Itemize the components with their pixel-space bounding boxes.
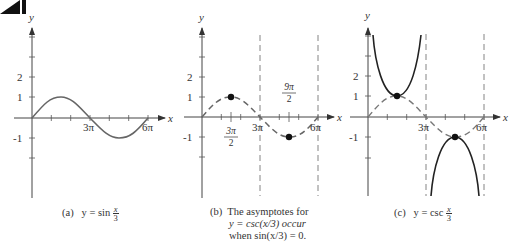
max-point [452,134,458,140]
ytick-2: 2 [187,71,193,83]
ytick-neg1: -1 [13,132,22,144]
frac-3pi-2-num: 3π [225,126,236,136]
ytick-neg1: -1 [349,131,358,143]
fraction: x3 [446,205,452,222]
caption-tag: (b) [210,206,222,217]
caption-equation: y = sin [82,207,111,218]
end-marker-icon [0,0,26,14]
caption-tag: (c) [394,207,406,218]
frac-9pi-2-den: 2 [287,94,292,104]
ytick-1: 1 [353,90,359,102]
y-axis-label: y [28,11,34,23]
x-axis-label: x [167,112,173,124]
caption-line-3: when sin(x/3) = 0. [210,230,306,241]
panel-b-graph [184,28,334,198]
caption-a: (a) y = sin x3 [62,205,119,222]
min-point [286,134,292,140]
y-axis-label: y [198,11,204,23]
ytick-1: 1 [187,91,193,103]
fraction: x3 [113,205,119,222]
csc-branch-upper [373,35,421,96]
xtick-6pi: 6π [310,121,322,133]
caption-c: (c) y = csc x3 [394,205,452,222]
frac-3pi-2-den: 2 [229,138,234,148]
panel-a-graph [14,28,165,198]
xtick-3pi: 3π [83,121,95,133]
frac-9pi-2-num: 9π [284,82,294,92]
ytick-neg1: -1 [183,131,192,143]
xtick-3pi: 3π [252,121,264,133]
y-axis-label: y [364,9,370,21]
ytick-2: 2 [353,70,359,82]
xtick-6pi: 6π [142,121,154,133]
x-axis-label: x [502,111,508,123]
ytick-1: 1 [17,91,23,103]
caption-line-1: The asymptotes for [227,206,308,217]
csc-branch-lower [431,137,479,196]
caption-equation: y = csc [414,207,444,218]
caption-b: (b) The asymptotes for y = csc(x/3) occu… [210,206,308,242]
panel-c-graph [350,28,500,196]
xtick-6pi: 6π [476,121,488,133]
max-point [228,94,234,100]
x-axis-label: x [336,111,342,123]
caption-tag: (a) [62,207,74,218]
ytick-2: 2 [17,71,23,83]
xtick-3pi: 3π [418,121,430,133]
caption-line-2: y = csc(x/3) occur [210,218,306,229]
min-point [394,93,400,99]
